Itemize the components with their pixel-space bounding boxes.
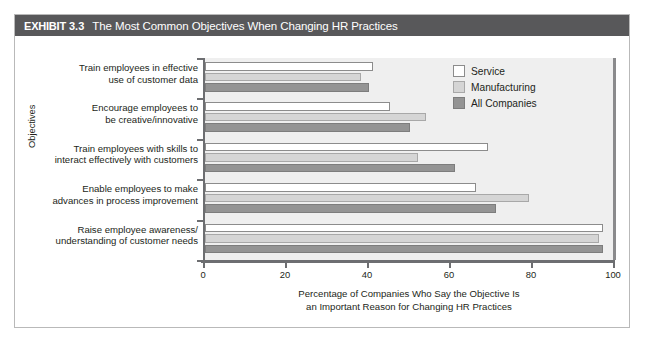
y-axis-tick bbox=[197, 58, 203, 60]
plot-right-edge bbox=[613, 58, 616, 260]
legend-swatch-manufacturing bbox=[453, 81, 465, 93]
bar-group bbox=[205, 220, 615, 260]
y-axis-category-line: Enable employees to make bbox=[27, 183, 198, 195]
x-axis-tick bbox=[203, 263, 205, 268]
bar-manufacturing bbox=[205, 194, 529, 203]
bar-service bbox=[205, 62, 373, 71]
bar-service bbox=[205, 183, 476, 192]
y-axis-category-line: use of customer data bbox=[27, 74, 198, 86]
exhibit-container: EXHIBIT 3.3 The Most Common Objectives W… bbox=[14, 14, 630, 328]
bar-group bbox=[205, 179, 615, 219]
bar-allcompanies bbox=[205, 204, 496, 213]
y-axis-category-line: understanding of customer needs bbox=[27, 235, 198, 247]
x-axis-tick bbox=[285, 263, 287, 268]
legend-item: All Companies bbox=[453, 95, 599, 111]
legend-label: All Companies bbox=[471, 98, 537, 109]
bar-allcompanies bbox=[205, 83, 369, 92]
y-axis-labels: Train employees in effectiveuse of custo… bbox=[15, 58, 203, 260]
exhibit-number: 3.3 bbox=[69, 20, 84, 32]
y-axis-category-line: Train employees in effective bbox=[27, 62, 198, 74]
bar-service bbox=[205, 102, 390, 111]
legend-swatch-allcompanies bbox=[453, 97, 465, 109]
x-axis-tick-label: 100 bbox=[605, 269, 621, 280]
x-axis-tick bbox=[367, 263, 369, 268]
y-axis-category-label: Encourage employees tobe creative/innova… bbox=[27, 102, 203, 125]
y-axis-category-label: Enable employees to makeadvances in proc… bbox=[27, 183, 203, 206]
bar-manufacturing bbox=[205, 113, 426, 122]
y-axis-category-label: Train employees in effectiveuse of custo… bbox=[27, 62, 203, 85]
y-axis-tick bbox=[197, 220, 203, 222]
y-axis-tick bbox=[197, 260, 203, 262]
bar-allcompanies bbox=[205, 123, 410, 132]
bar-manufacturing bbox=[205, 234, 599, 243]
y-axis-category-line: interact effectively with customers bbox=[27, 154, 198, 166]
exhibit-title-bar: EXHIBIT 3.3 The Most Common Objectives W… bbox=[15, 15, 629, 36]
x-axis-title-line1: Percentage of Companies Who Say the Obje… bbox=[203, 288, 615, 301]
exhibit-title: The Most Common Objectives When Changing… bbox=[92, 20, 397, 32]
x-axis-title: Percentage of Companies Who Say the Obje… bbox=[203, 288, 615, 313]
bar-service bbox=[205, 143, 488, 152]
y-axis-category-label: Raise employee awareness/understanding o… bbox=[27, 224, 203, 247]
y-axis-category-line: advances in process improvement bbox=[27, 195, 198, 207]
x-axis-tick bbox=[531, 263, 533, 268]
y-axis-category-label: Train employees with skills tointeract e… bbox=[27, 143, 203, 166]
x-axis-tick-label: 40 bbox=[362, 269, 372, 280]
y-axis-category-line: Raise employee awareness/ bbox=[27, 224, 198, 236]
legend-item: Manufacturing bbox=[453, 79, 599, 95]
bar-manufacturing bbox=[205, 153, 418, 162]
bar-group bbox=[205, 139, 615, 179]
chart-area: Objectives Train employees in effectiveu… bbox=[15, 36, 629, 327]
bar-service bbox=[205, 224, 603, 233]
bar-allcompanies bbox=[205, 164, 455, 173]
y-axis-tick bbox=[197, 139, 203, 141]
x-axis-tick bbox=[613, 263, 615, 268]
legend-swatch-service bbox=[453, 65, 465, 77]
y-axis-tick bbox=[197, 98, 203, 100]
y-axis-category-line: Encourage employees to bbox=[27, 102, 198, 114]
y-axis-category-line: be creative/innovative bbox=[27, 114, 198, 126]
bar-allcompanies bbox=[205, 245, 603, 254]
x-axis-tick-label: 80 bbox=[526, 269, 536, 280]
x-axis-line bbox=[201, 260, 615, 263]
exhibit-label: EXHIBIT bbox=[24, 20, 66, 32]
legend-item: Service bbox=[453, 63, 599, 79]
chart-legend: ServiceManufacturingAll Companies bbox=[453, 63, 599, 111]
x-axis-tick-label: 60 bbox=[444, 269, 454, 280]
legend-label: Service bbox=[471, 66, 505, 77]
y-axis-category-line: Train employees with skills to bbox=[27, 143, 198, 155]
y-axis-tick bbox=[197, 179, 203, 181]
x-axis-tick-label: 0 bbox=[200, 269, 205, 280]
x-axis-tick-label: 20 bbox=[280, 269, 290, 280]
bar-manufacturing bbox=[205, 73, 361, 82]
x-axis-title-line2: an Important Reason for Changing HR Prac… bbox=[203, 301, 615, 314]
legend-label: Manufacturing bbox=[471, 82, 536, 93]
x-axis-tick bbox=[449, 263, 451, 268]
